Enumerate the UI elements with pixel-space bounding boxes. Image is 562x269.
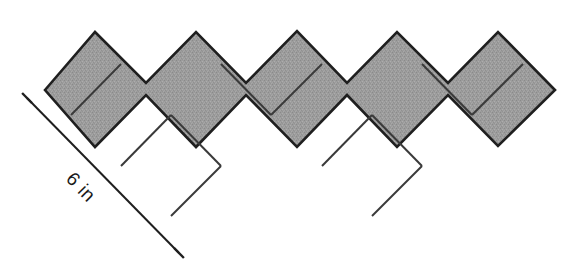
dimension-tick-end-icon [174,248,184,258]
zigzag-figure-svg: 6 in [0,0,562,269]
dimension-label-group: 6 in [62,168,100,206]
figure-canvas: 6 in [0,0,562,269]
zigzag-strip-outline [45,31,555,147]
dimension-tick-start-icon [22,93,32,103]
square-division-line [322,115,372,166]
square-division-line [171,166,221,216]
square-division-line [121,115,171,166]
dimension-label: 6 in [62,168,100,206]
zigzag-strip-group [45,31,555,147]
square-division-line [372,166,422,216]
